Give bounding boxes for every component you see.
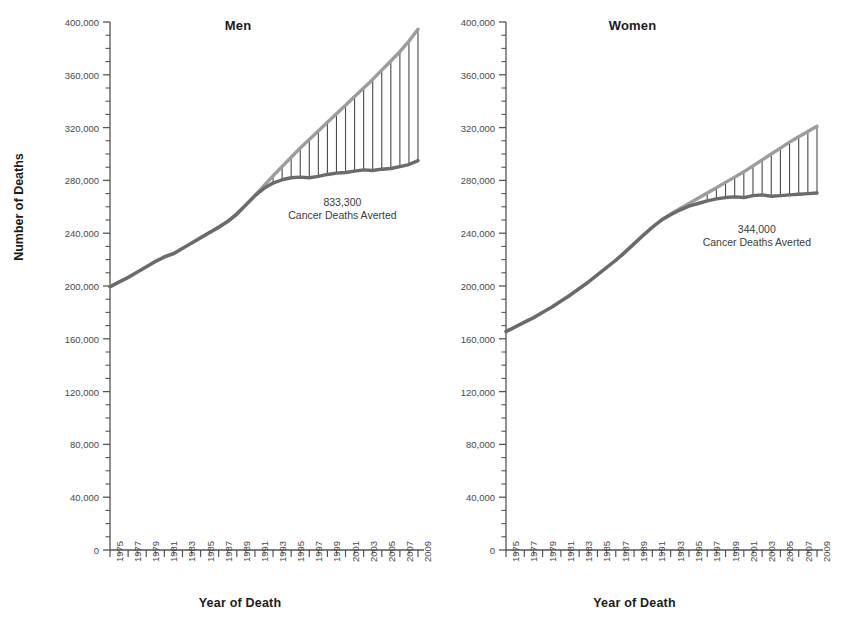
x-tick-label: 1981 [168,541,179,562]
y-tick-label: 200,000 [0,281,99,292]
y-tick-label: 200,000 [440,281,495,292]
x-tick-label: 1975 [114,541,125,562]
y-tick-label: 80,000 [0,439,99,450]
plot-area-men [0,0,440,626]
x-tick-label: 1999 [331,541,342,562]
x-tick-label: 1987 [223,541,234,562]
x-tick-label: 2003 [766,541,777,562]
x-tick-label: 1975 [510,541,521,562]
y-tick-label: 320,000 [0,122,99,133]
y-tick-label: 280,000 [0,175,99,186]
x-tick-label: 2009 [821,541,832,562]
x-tick-label: 2005 [386,541,397,562]
x-tick-label: 1983 [186,541,197,562]
plot-area-women [440,0,841,626]
x-tick-label: 1995 [295,541,306,562]
x-tick-label: 1999 [730,541,741,562]
y-tick-label: 0 [0,545,99,556]
x-tick-label: 1991 [656,541,667,562]
x-tick-label: 2001 [748,541,759,562]
series-line-observed [506,193,817,332]
x-tick-label: 1985 [601,541,612,562]
y-tick-label: 160,000 [0,333,99,344]
x-tick-label: 1991 [259,541,270,562]
y-tick-label: 360,000 [440,69,495,80]
y-tick-label: 120,000 [0,386,99,397]
annotation-caption-women: Cancer Deaths Averted [682,236,832,249]
x-tick-label: 2007 [803,541,814,562]
series-line-observed [110,161,418,287]
x-tick-label: 2005 [784,541,795,562]
panel-women: Women 344,000 Cancer Deaths Averted Year… [440,0,841,626]
panel-container: Men Number of Deaths 833,300 Cancer Deat… [0,0,841,626]
y-tick-label: 40,000 [440,492,495,503]
x-tick-label: 2003 [368,541,379,562]
x-axis-title-women: Year of Death [434,596,835,610]
x-tick-label: 1993 [277,541,288,562]
x-tick-label: 2001 [350,541,361,562]
y-tick-label: 40,000 [0,492,99,503]
y-tick-label: 360,000 [0,69,99,80]
annotation-men: 833,300 Cancer Deaths Averted [267,196,417,222]
y-tick-label: 320,000 [440,122,495,133]
y-tick-label: 400,000 [0,17,99,28]
y-tick-label: 120,000 [440,386,495,397]
x-tick-label: 1989 [638,541,649,562]
y-tick-label: 240,000 [440,228,495,239]
y-tick-label: 280,000 [440,175,495,186]
x-tick-label: 1981 [565,541,576,562]
annotation-number-women: 344,000 [682,223,832,236]
x-axis-title-men: Year of Death [20,596,460,610]
annotation-caption-men: Cancer Deaths Averted [267,209,417,222]
y-tick-label: 160,000 [440,333,495,344]
x-tick-label: 1979 [547,541,558,562]
x-tick-label: 1993 [675,541,686,562]
x-tick-label: 1997 [313,541,324,562]
figure-root: Men Number of Deaths 833,300 Cancer Deat… [0,0,841,626]
x-tick-label: 1979 [150,541,161,562]
annotation-women: 344,000 Cancer Deaths Averted [682,223,832,249]
x-tick-label: 2007 [404,541,415,562]
y-tick-label: 80,000 [440,439,495,450]
x-tick-label: 1997 [711,541,722,562]
series-line-expected [110,29,418,286]
x-tick-label: 1989 [241,541,252,562]
x-tick-label: 1985 [205,541,216,562]
y-tick-label: 400,000 [440,17,495,28]
x-tick-label: 1987 [620,541,631,562]
x-tick-label: 1977 [132,541,143,562]
panel-men: Men Number of Deaths 833,300 Cancer Deat… [0,0,440,626]
x-tick-label: 1995 [693,541,704,562]
x-tick-label: 1977 [528,541,539,562]
y-tick-label: 240,000 [0,228,99,239]
annotation-number-men: 833,300 [267,196,417,209]
x-tick-label: 2009 [422,541,433,562]
x-tick-label: 1983 [583,541,594,562]
y-tick-label: 0 [440,545,495,556]
